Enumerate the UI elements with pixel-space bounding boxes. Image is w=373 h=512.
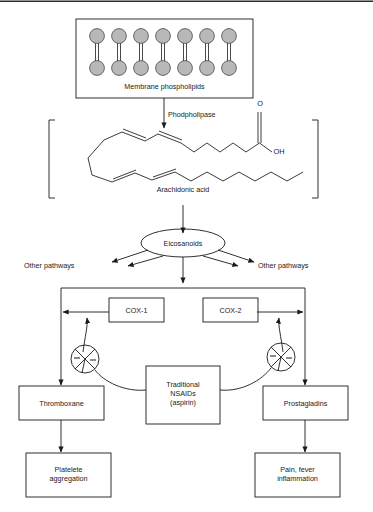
phospholipid-heads-upper <box>90 29 237 44</box>
arrow-inhibit-cox2 <box>279 318 283 352</box>
inhibition-circle-cox2-glyph <box>267 343 295 371</box>
arrow-other-left-lower <box>128 256 163 266</box>
arrow-other-right-upper <box>218 250 254 262</box>
prostagladins-box <box>263 386 348 420</box>
diagram-vector-layer <box>0 0 373 512</box>
phospholipid-heads-lower <box>90 61 237 76</box>
inhibition-minus-signs <box>74 356 292 360</box>
platelet-box <box>26 453 111 497</box>
thromboxane-box <box>19 386 104 420</box>
phospholipid-tails <box>96 41 231 63</box>
connector-nsaids-to-cox1-circle <box>95 370 146 390</box>
arachidonic-bracket-right <box>312 120 318 198</box>
pain-box <box>255 453 340 497</box>
diagram-canvas: Membrane phospholipids Phodpholipase O O… <box>0 0 373 512</box>
inhibition-circle-cox1-glyph <box>71 345 99 373</box>
arrow-inhibit-cox1 <box>83 318 87 352</box>
arachidonic-bracket-left <box>49 120 55 198</box>
arrow-other-left-upper <box>112 250 148 262</box>
nsaids-box <box>146 366 220 424</box>
eicosanoids-ellipse <box>141 229 225 257</box>
arrow-other-right-lower <box>203 256 238 266</box>
cox2-box <box>203 298 258 322</box>
cox1-box <box>109 298 164 322</box>
arachidonic-acid-structure <box>88 112 303 182</box>
